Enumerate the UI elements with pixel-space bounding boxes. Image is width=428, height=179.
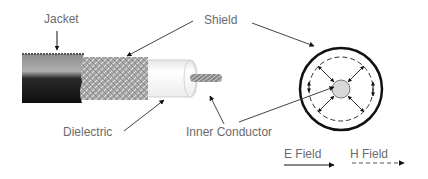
inner-conductor-pointer-cable	[210, 96, 224, 124]
shield-pointer-cable	[127, 21, 193, 56]
inner-conductor-wire	[190, 74, 222, 82]
dielectric-pointer	[124, 100, 164, 131]
dielectric-section	[140, 60, 197, 97]
dielectric-label: Dielectric	[63, 125, 112, 139]
h-field-legend-label: H Field	[350, 147, 388, 161]
shield-pointer-cross	[252, 23, 314, 46]
shield-braid	[77, 57, 148, 100]
cross-section	[300, 48, 382, 130]
cross-section-conductor	[332, 80, 350, 98]
jacket-section	[22, 54, 84, 103]
jacket-label: Jacket	[44, 12, 79, 26]
inner-conductor-label: Inner Conductor	[186, 125, 272, 139]
shield-label: Shield	[204, 13, 237, 27]
e-field-legend-label: E Field	[284, 147, 321, 161]
